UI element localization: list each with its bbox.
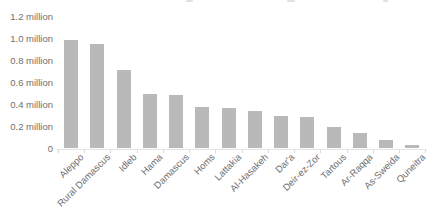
- category-tick: [425, 150, 426, 153]
- bar-hama: [143, 94, 157, 149]
- category-tick: [242, 150, 243, 153]
- category-tick: [137, 150, 138, 153]
- category-tick: [163, 150, 164, 153]
- bar-aleppo: [64, 40, 78, 149]
- category-tick: [189, 150, 190, 153]
- bar-damascus: [169, 95, 183, 149]
- y-axis-tick-label: 0.4 million: [0, 99, 53, 110]
- bar-ar-raqqa: [353, 133, 367, 148]
- category-tick: [110, 150, 111, 153]
- y-axis-tick-label: 1.0 million: [0, 33, 53, 44]
- cropped-title-artifact: [186, 0, 193, 2]
- category-tick: [399, 150, 400, 153]
- category-tick: [215, 150, 216, 153]
- category-tick: [58, 150, 59, 153]
- bar-tartous: [327, 127, 341, 149]
- bar-lattakia: [222, 108, 236, 149]
- category-tick: [84, 150, 85, 153]
- category-tick: [347, 150, 348, 153]
- y-axis-tick-label: 1.2 million: [0, 11, 53, 22]
- y-axis-tick-label: 0.8 million: [0, 55, 53, 66]
- y-axis-tick-label: 0.6 million: [0, 77, 53, 88]
- category-tick: [373, 150, 374, 153]
- category-tick: [268, 150, 269, 153]
- bar-al-hasakeh: [248, 111, 262, 148]
- x-axis-label: Idleb: [117, 152, 139, 174]
- category-tick: [320, 150, 321, 153]
- y-axis-tick-label: 0.2 million: [0, 121, 53, 132]
- bar-rural-damascus: [90, 44, 104, 148]
- category-tick: [294, 150, 295, 153]
- bar-deir-ez-zor: [300, 117, 314, 149]
- y-axis-tick-label: 0: [0, 143, 59, 154]
- cropped-title-artifact: [287, 0, 295, 2]
- cropped-title-artifact: [383, 0, 388, 2]
- population-bar-chart: 1.2 million1.0 million0.8 million0.6 mil…: [0, 0, 427, 207]
- bar-quneitra: [405, 145, 419, 148]
- bar-homs: [195, 107, 209, 149]
- bar-dar-a: [274, 116, 288, 149]
- bar-as-sweida: [379, 140, 393, 149]
- bar-idleb: [117, 70, 131, 149]
